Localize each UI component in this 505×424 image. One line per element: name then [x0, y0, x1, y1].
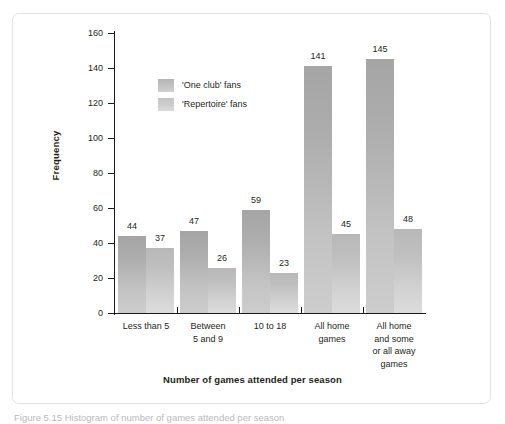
y-axis-tick [108, 103, 115, 104]
bar[interactable]: 48 [394, 229, 422, 313]
bar[interactable]: 145 [366, 59, 394, 313]
y-axis-tick-label: 20 [3, 274, 103, 283]
y-axis-tick [108, 208, 115, 209]
x-axis-category-label: 10 to 18 [239, 320, 301, 333]
bar-value-label: 44 [127, 222, 137, 231]
bar-value-label: 47 [189, 217, 199, 226]
y-axis-tick-label-wrap: 160 [0, 29, 103, 38]
y-axis-tick [108, 173, 115, 174]
plot-area: 4437472659231414514548 [115, 33, 425, 313]
y-axis-tick [108, 243, 115, 244]
bar-value-label: 141 [310, 52, 325, 61]
bar[interactable]: 59 [242, 210, 270, 313]
bar-group: 5923 [242, 33, 298, 313]
x-axis-category-label: Less than 5 [115, 320, 177, 333]
y-axis-tick [108, 68, 115, 69]
figure-caption: Figure 5.15 Histogram of number of games… [14, 412, 494, 424]
x-axis-category-label: Between 5 and 9 [177, 320, 239, 345]
bar-value-label: 145 [372, 45, 387, 54]
bar[interactable]: 26 [208, 268, 236, 314]
bar-value-label: 48 [403, 215, 413, 224]
legend-item[interactable]: 'Repertoire' fans [158, 95, 247, 114]
bar[interactable]: 44 [118, 236, 146, 313]
y-axis-tick [108, 33, 115, 34]
bar[interactable]: 23 [270, 273, 298, 313]
bar[interactable]: 141 [304, 66, 332, 313]
y-axis-tick [108, 313, 115, 314]
bar-group: 4726 [180, 33, 236, 313]
bar-group: 14145 [304, 33, 360, 313]
y-axis-tick-label: 160 [3, 29, 103, 38]
bar[interactable]: 47 [180, 231, 208, 313]
bar-value-label: 37 [155, 234, 165, 243]
x-axis-title: Number of games attended per season [0, 374, 505, 385]
y-axis-title: Frequency [50, 96, 61, 216]
y-axis-tick-label: 0 [3, 309, 103, 318]
legend-label: 'One club' fans [182, 81, 241, 90]
bar-value-label: 59 [251, 196, 261, 205]
bar-group: 14548 [366, 33, 422, 313]
x-axis-line [114, 313, 426, 314]
legend-swatch [158, 79, 174, 92]
y-axis-tick [108, 138, 115, 139]
chart-legend: 'One club' fans'Repertoire' fans [158, 76, 247, 114]
bar-value-label: 23 [279, 259, 289, 268]
legend-label: 'Repertoire' fans [182, 100, 247, 109]
bar[interactable]: 45 [332, 234, 360, 313]
y-axis-tick-label-wrap: 140 [0, 64, 103, 73]
bar-value-label: 26 [217, 254, 227, 263]
bar[interactable]: 37 [146, 248, 174, 313]
legend-item[interactable]: 'One club' fans [158, 76, 247, 95]
x-axis-category-label: All home and some or all away games [363, 320, 425, 370]
y-axis-tick-label: 140 [3, 64, 103, 73]
bar-group: 4437 [118, 33, 174, 313]
bar-value-label: 45 [341, 220, 351, 229]
x-axis-category-label: All home games [301, 320, 363, 345]
y-axis-tick-label: 40 [3, 239, 103, 248]
y-axis-tick-label-wrap: 0 [0, 309, 103, 318]
y-axis-tick-label-wrap: 20 [0, 274, 103, 283]
legend-swatch [158, 98, 174, 111]
y-axis-tick [108, 278, 115, 279]
y-axis-tick-label-wrap: 40 [0, 239, 103, 248]
